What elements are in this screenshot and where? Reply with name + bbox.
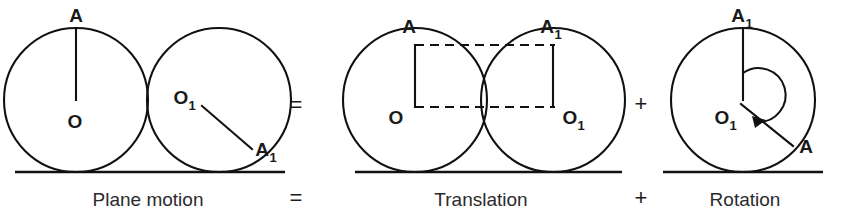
panel-plane-motion (4, 28, 291, 172)
label-center-O1-subscript-plane-motion: 1 (188, 98, 195, 113)
plane-motion-figure: = + A O O 1 A 1 (0, 0, 841, 223)
panel-translation (343, 28, 625, 172)
diagram-canvas: = + A O O 1 A 1 (0, 0, 841, 223)
caption-translation: Translation (434, 189, 527, 210)
label-point-A-translation: A (402, 16, 416, 37)
radius-O1-to-A-rotation (741, 104, 793, 146)
operator-equals-bottom: = (290, 185, 303, 210)
label-point-A1-plane-motion: A (255, 139, 269, 160)
label-point-A-rotation: A (799, 136, 813, 157)
label-center-O1-plane-motion: O (174, 87, 189, 108)
rotation-direction-arc (743, 68, 786, 122)
label-center-O-plane-motion: O (68, 111, 83, 132)
operator-equals-top: = (290, 92, 303, 117)
label-point-A-plane-motion: A (69, 5, 83, 26)
label-point-A1-translation: A (540, 16, 554, 37)
caption-plane-motion: Plane motion (93, 189, 204, 210)
operator-plus-top: + (635, 91, 648, 116)
radius-O1-to-A1 (202, 106, 252, 149)
label-point-A1-rotation: A (731, 5, 745, 26)
operator-plus-bottom: + (635, 185, 648, 210)
label-point-A1-subscript-plane-motion: 1 (269, 150, 276, 165)
label-center-O1-subscript-translation: 1 (577, 118, 584, 133)
label-center-O1-subscript-rotation: 1 (729, 118, 736, 133)
label-point-A1-subscript-rotation: 1 (745, 16, 752, 31)
label-center-O-translation: O (389, 107, 404, 128)
label-center-O1-translation: O (563, 107, 578, 128)
label-point-A1-subscript-translation: 1 (554, 27, 561, 42)
label-center-O1-rotation: O (715, 107, 730, 128)
caption-rotation: Rotation (710, 189, 781, 210)
